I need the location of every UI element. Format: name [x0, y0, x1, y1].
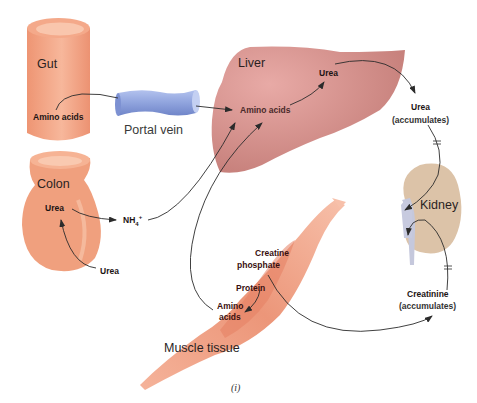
urea-accumulates-label-2: (accumulates)	[392, 115, 449, 125]
gut-organ	[27, 18, 90, 141]
liver-urea-label: Urea	[319, 68, 338, 78]
creatinine-label-1: Creatinine	[407, 289, 449, 299]
colon-urea-label: Urea	[45, 203, 64, 213]
gut-amino-acids-label: Amino acids	[33, 112, 84, 122]
urea-accumulates-label-1: Urea	[411, 102, 430, 112]
creatine-phosphate-label-1: Creatine	[255, 248, 289, 258]
kidney-organ	[401, 164, 461, 265]
ammonium-label: NH4+	[123, 214, 143, 227]
gut-label: Gut	[37, 57, 58, 71]
protein-label: Protein	[236, 283, 265, 293]
liver-label: Liver	[238, 56, 265, 70]
kidney-label: Kidney	[420, 198, 459, 212]
portal-vein-label: Portal vein	[124, 123, 183, 137]
muscle-organ	[140, 198, 346, 390]
urea-to-colon-label: Urea	[100, 266, 119, 276]
diagram-canvas: Gut Colon Liver Kidney Muscle tissue Por…	[0, 0, 477, 403]
portal-vein	[115, 90, 200, 116]
muscle-amino-acids-label-1: Amino	[217, 301, 243, 311]
figure-caption: (i)	[231, 382, 241, 394]
muscle-amino-acids-label-2: acids	[219, 312, 241, 322]
colon-label: Colon	[37, 177, 70, 191]
creatine-phosphate-label-2: phosphate	[237, 260, 280, 270]
liver-amino-acids-label: Amino acids	[240, 105, 291, 115]
muscle-tissue-label: Muscle tissue	[164, 341, 240, 355]
creatinine-label-2: (accumulates)	[399, 301, 456, 311]
